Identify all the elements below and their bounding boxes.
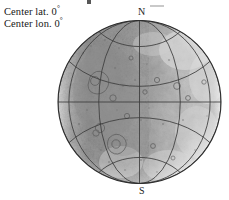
center-latitude-line: Center lat. 0° — [4, 6, 63, 18]
clipped-text-artifact-secondary — [150, 5, 164, 7]
figure-page: Center lat. 0° Center lon. 0° N S — [0, 0, 229, 200]
clipped-text-artifact — [87, 0, 91, 4]
degree-symbol-lat: ° — [57, 4, 60, 13]
center-latitude-text: Center lat. 0 — [4, 6, 57, 17]
globe-svg — [57, 20, 222, 184]
center-longitude-text: Center lon. 0 — [4, 18, 60, 29]
south-pole-label: S — [139, 186, 145, 196]
globe-figure — [57, 20, 222, 184]
center-longitude-line: Center lon. 0° — [4, 18, 63, 30]
north-pole-label: N — [138, 7, 145, 17]
center-coordinates-caption: Center lat. 0° Center lon. 0° — [4, 6, 63, 30]
